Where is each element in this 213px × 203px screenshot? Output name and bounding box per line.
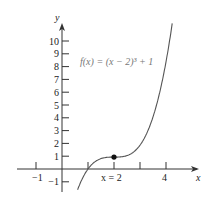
x-tick-label-2: x = 2 [101,172,122,183]
y-tick-label: 4 [54,112,59,123]
y-axis-label: y [54,12,60,23]
inflection-point [111,154,116,159]
y-tick-label: 6 [54,87,59,98]
y-tick-label: 10 [49,36,59,47]
y-tick-label: 1 [54,151,59,162]
y-tick-label: −1 [48,176,59,187]
y-tick-label: 2 [54,138,59,149]
y-ticks: −112345678910 [48,36,69,188]
y-tick-label: 5 [54,100,59,111]
cubic-function-plot: −112345678910 y x f(x) = (x − 2)³ + 1 −1… [0,0,213,203]
y-tick-label: 8 [54,61,59,72]
x-tick-label-neg1: −1 [32,172,43,183]
function-label: f(x) = (x − 2)³ + 1 [80,56,153,68]
x-tick-label-4: 4 [162,172,167,183]
x-axis-label: x [195,172,201,183]
x-ticks [36,162,166,169]
y-tick-label: 9 [54,48,59,59]
function-curve [78,23,173,190]
y-tick-label: 7 [54,74,59,85]
y-tick-label: 3 [54,125,59,136]
chart: −112345678910 y x f(x) = (x − 2)³ + 1 −1… [0,0,213,203]
